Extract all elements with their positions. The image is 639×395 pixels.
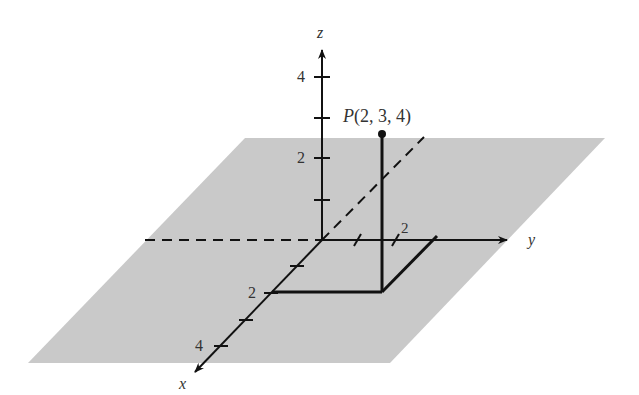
z-axis-label: z [316,24,324,41]
point-p [378,130,386,138]
x-tick-label-2: 2 [248,284,256,301]
point-p-label: P(2, 3, 4) [342,106,411,127]
diagram-canvas: z 4 2 y 2 x 2 4 P(2, 3, 4) [0,0,639,395]
x-axis-label: x [178,375,186,392]
z-tick-label-4: 4 [297,68,305,85]
y-axis-label: y [526,231,536,249]
z-tick-label-2: 2 [297,149,305,166]
x-tick-label-4: 4 [195,337,203,354]
xy-plane [28,138,605,363]
y-tick-label-2: 2 [401,220,409,236]
